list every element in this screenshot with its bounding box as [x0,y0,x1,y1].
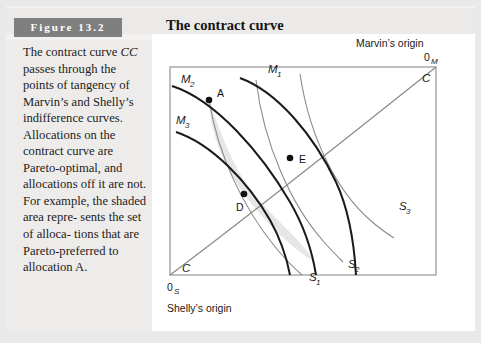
marvin-curve-1-subscript: 1 [277,70,281,79]
shelly-origin-subscript: S [174,287,180,296]
point-label-e: E [299,153,306,165]
figure-title: The contract curve [166,17,284,34]
shelly-origin-symbol: 0 S [167,281,180,296]
figure-caption: The contract curve CC passes through the… [23,44,147,276]
marvin-curve-2-subscript: 2 [189,80,195,89]
contract-curve-label-upper: C [422,72,431,84]
shelly-curve-1-label: S 1 [309,271,320,287]
contract-curve-label-lower: C [182,262,191,274]
edgeworth-box-diagram: A D E M 1 M 2 M 3 S 1 S 2 [152,34,475,331]
marvin-origin-subscript: M [431,57,438,66]
shelly-curve-1-subscript: 1 [316,278,320,287]
shelly-curve-3-subscript: 3 [406,207,411,216]
marvin-curve-2-label: M 2 [181,73,195,89]
caption-line-15: allocation A. [23,260,87,274]
shelly-curve-2-subscript: 2 [354,265,360,274]
point-marker-d [241,191,248,198]
marvin-origin-zero: 0 [424,51,430,63]
marvin-origin-caption: Marvin’s origin [356,37,424,49]
shelly-curve-3-label: S 3 [399,200,411,216]
caption-line-8: Pareto-optimal, and [23,161,122,175]
marvin-origin-symbol: 0 M [424,51,438,66]
figure-number-badge: Figure 13.2 [14,18,122,37]
point-marker-a [206,97,213,104]
marvin-curve-1-label: M 1 [268,63,281,79]
marvin-curve-3 [176,132,290,275]
point-label-d: D [236,201,244,213]
point-marker-e [287,155,294,162]
caption-line-2: passes through [23,62,98,76]
marvin-curve-3-label: M 3 [176,114,190,130]
caption-line-9: allocations off it are [23,177,124,191]
shelly-origin-zero: 0 [167,281,173,293]
marvin-curve-3-subscript: 3 [185,121,190,130]
shelly-curve-2-label: S 2 [348,258,360,274]
point-label-a: A [217,87,224,99]
shelly-origin-caption: Shelly’s origin [167,302,232,314]
caption-line-13: tions that are [74,227,139,241]
caption-line-14: Pareto-preferred to [23,244,118,258]
caption-cc-italic: CC [121,45,138,59]
chart-panel: A D E M 1 M 2 M 3 S 1 S 2 [152,34,475,331]
caption-line-1: The contract curve [23,45,117,59]
figure-root: Figure 13.2 The contract curve The contr… [0,0,481,343]
